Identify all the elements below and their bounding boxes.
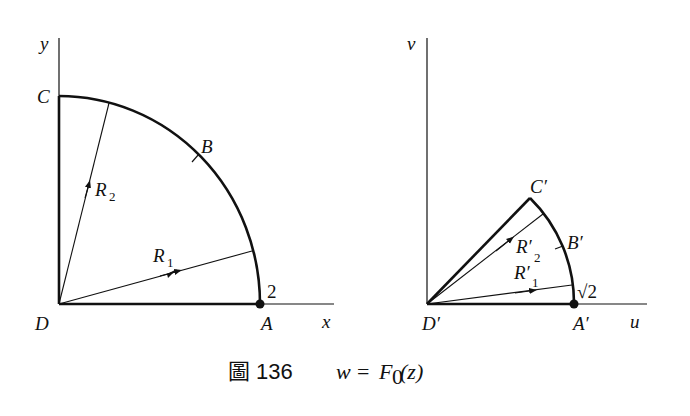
label-A': A′ bbox=[571, 313, 590, 334]
label-R1': R′ 1 bbox=[513, 262, 539, 290]
figure-canvas: y x C B D A 2 R 1 R 2 v bbox=[0, 0, 690, 416]
path-R2 bbox=[59, 103, 109, 304]
svg-text:R′: R′ bbox=[515, 236, 533, 257]
radius-label-sqrt2: √2 bbox=[577, 281, 597, 302]
svg-text:R: R bbox=[94, 179, 107, 200]
svg-text:2: 2 bbox=[534, 250, 541, 265]
u-axis-label: u bbox=[630, 311, 640, 332]
label-C: C bbox=[37, 86, 50, 107]
svg-text:2: 2 bbox=[109, 189, 116, 204]
svg-text:1: 1 bbox=[167, 255, 174, 270]
label-R1: R 1 bbox=[152, 245, 174, 270]
label-R2: R 2 bbox=[94, 179, 116, 204]
label-R2': R′ 2 bbox=[515, 236, 541, 265]
tick-B bbox=[192, 154, 199, 162]
path-R1' bbox=[427, 285, 572, 304]
left-panel: y x C B D A 2 R 1 R 2 bbox=[34, 33, 334, 334]
caption-w: w bbox=[336, 359, 351, 384]
label-B: B bbox=[201, 136, 213, 157]
arc-CBA bbox=[59, 96, 260, 304]
path-R2' bbox=[427, 214, 543, 304]
label-A: A bbox=[259, 313, 273, 334]
label-D: D bbox=[34, 313, 49, 334]
caption-eq: = bbox=[357, 359, 369, 384]
y-axis-label: y bbox=[38, 33, 49, 54]
label-C': C′ bbox=[530, 176, 548, 197]
caption-arg: (z) bbox=[400, 359, 423, 384]
svg-text:R′: R′ bbox=[513, 262, 531, 283]
label-B': B′ bbox=[567, 232, 584, 253]
svg-text:1: 1 bbox=[532, 275, 539, 290]
segment-D'C' bbox=[427, 198, 530, 304]
v-axis-label: v bbox=[407, 33, 416, 54]
point-A bbox=[256, 300, 265, 309]
label-D': D′ bbox=[421, 313, 441, 334]
caption-F: F bbox=[378, 359, 393, 384]
right-panel: v u C′ B′ D′ A′ √2 R′ 2 R′ 1 bbox=[407, 33, 647, 334]
radius-label: 2 bbox=[267, 281, 277, 302]
x-axis-label: x bbox=[321, 311, 331, 332]
figure-caption: 圖 136 w = F 0 (z) bbox=[228, 359, 423, 389]
caption-prefix: 圖 136 bbox=[228, 359, 293, 384]
svg-text:R: R bbox=[152, 245, 165, 266]
